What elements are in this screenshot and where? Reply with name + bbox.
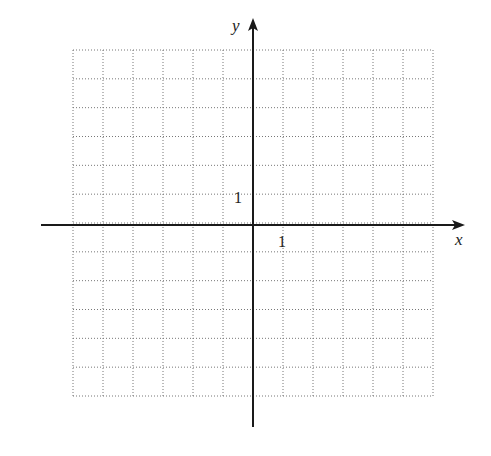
x-axis-label: x — [454, 230, 463, 249]
y-unit-tick-label: 1 — [234, 189, 242, 206]
y-axis-label: y — [230, 16, 240, 35]
coordinate-plane: x y 1 1 — [0, 0, 491, 456]
x-unit-tick-label: 1 — [278, 233, 286, 250]
